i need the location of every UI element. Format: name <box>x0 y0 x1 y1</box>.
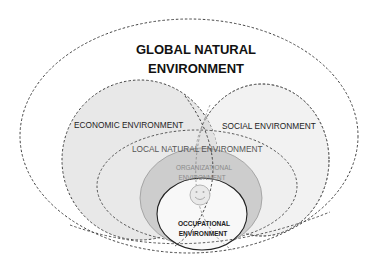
economic-environment-label: ECONOMIC ENVIRONMENT <box>74 120 183 130</box>
organizational-environment-label-line2: ENVIRONMENT <box>178 174 225 181</box>
social-environment-label: SOCIAL ENVIRONMENT <box>222 121 316 131</box>
global-natural-environment-title-line1: GLOBAL NATURAL <box>136 42 256 57</box>
local-natural-environment-label: LOCAL NATURAL ENVIRONMENT <box>132 144 263 154</box>
occupational-environment-label-line1: OCCUPATIONAL <box>178 220 230 227</box>
global-natural-environment-title-line2: ENVIRONMENT <box>148 61 244 76</box>
smiley-face-icon <box>190 185 210 205</box>
nested-environments-diagram: GLOBAL NATURAL ENVIRONMENT ECONOMIC ENVI… <box>0 0 370 272</box>
occupational-environment-label-line2: ENVIRONMENT <box>179 230 228 237</box>
organizational-environment-label-line1: ORGANIZATIONAL <box>176 164 232 171</box>
